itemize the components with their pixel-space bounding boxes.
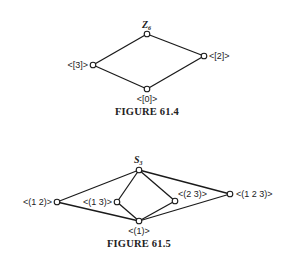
node-z6 xyxy=(144,31,150,37)
edge-2-0 xyxy=(147,56,204,89)
node-23 xyxy=(172,198,178,204)
node-label-12: <(1 2)> xyxy=(23,197,52,207)
node-label-1: <(1)> xyxy=(128,226,150,236)
node-label-13: <(1 3)> xyxy=(83,197,112,207)
node-label-123: <(1 2 3)> xyxy=(236,189,273,199)
edge-z6-3 xyxy=(93,34,147,65)
node-123 xyxy=(227,191,233,197)
figure-61-4: Z6 <[3]> <[2]> <[0]> FIGURE 61.4 xyxy=(67,19,229,117)
node-label-3: <[3]> xyxy=(67,60,88,70)
figure-caption: FIGURE 61.4 xyxy=(115,106,180,117)
node-3 xyxy=(90,62,96,68)
edge-3-0 xyxy=(93,65,147,89)
node-0 xyxy=(144,86,150,92)
node-13 xyxy=(114,199,120,205)
node-2 xyxy=(201,53,207,59)
node-1 xyxy=(136,218,142,224)
figure-caption: FIGURE 61.5 xyxy=(107,238,171,249)
node-label-s3: S3 xyxy=(134,154,143,166)
node-12 xyxy=(54,199,60,205)
node-label-z6: Z6 xyxy=(141,19,151,31)
lattice-diagrams: Z6 <[3]> <[2]> <[0]> FIGURE 61.4 S3 <(1 … xyxy=(0,0,292,268)
node-label-23: <(2 3)> xyxy=(178,189,207,199)
node-s3 xyxy=(136,167,142,173)
node-label-2: <[2]> xyxy=(209,51,230,61)
node-label-0: <[0]> xyxy=(137,94,158,104)
edge-23-1 xyxy=(139,201,175,221)
edge-z6-2 xyxy=(147,34,204,56)
figure-61-5: S3 <(1 2)> <(1 3)> <(2 3)> <(1 2 3)> <(1… xyxy=(23,154,273,249)
